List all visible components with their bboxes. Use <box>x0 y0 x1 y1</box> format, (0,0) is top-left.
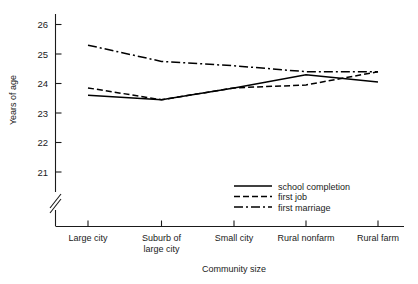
line-chart: 26 25 24 23 22 21 Large city Suburb of l… <box>0 0 418 284</box>
series-line-school-completion <box>88 75 378 100</box>
y-tick-group: 26 25 24 23 22 21 <box>37 19 61 178</box>
y-tick-label: 25 <box>37 49 48 60</box>
series-line-first-marriage <box>88 45 378 72</box>
x-tick-group <box>88 221 378 227</box>
x-tick-label: Large city <box>68 233 108 243</box>
legend-label-first-marriage: first marriage <box>278 203 331 213</box>
x-tick-label-line2: large city <box>143 244 180 254</box>
x-tick-label: Suburb of <box>142 233 182 243</box>
x-axis-title: Community size <box>202 264 266 274</box>
x-tick-label-group: Large city Suburb of large city Small ci… <box>68 233 399 254</box>
y-axis-title: Years of age <box>8 75 18 125</box>
legend: school completion first job first marria… <box>234 182 350 213</box>
x-tick-label: Rural nonfarm <box>277 233 334 243</box>
x-tick-label: Small city <box>215 233 254 243</box>
series-line-first-job <box>88 72 378 100</box>
x-tick-label: Rural farm <box>357 233 399 243</box>
y-tick-label: 24 <box>37 78 48 89</box>
y-tick-label: 22 <box>37 137 48 148</box>
y-tick-label: 23 <box>37 108 48 119</box>
legend-label-first-job: first job <box>278 192 307 202</box>
y-tick-label: 26 <box>37 19 48 30</box>
legend-label-school-completion: school completion <box>278 182 350 192</box>
y-tick-label: 21 <box>37 167 48 178</box>
chart-figure: 26 25 24 23 22 21 Large city Suburb of l… <box>0 0 418 284</box>
